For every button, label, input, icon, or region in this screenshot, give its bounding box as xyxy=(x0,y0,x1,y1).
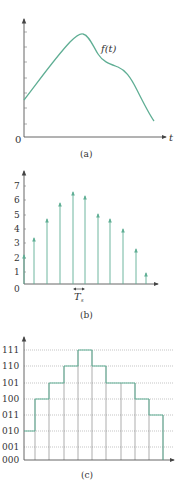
svg-text:3: 3 xyxy=(14,238,20,248)
origin-label: 0 xyxy=(15,134,21,145)
figure: f(t) t 0 (a) 1 2 3 4 5 6 7 0 xyxy=(0,0,191,486)
y-tick-labels: 000 001 010 011 100 101 110 111 xyxy=(2,345,19,465)
caption-c: (c) xyxy=(81,470,93,480)
sample-stems xyxy=(24,192,146,284)
svg-text:011: 011 xyxy=(2,410,19,420)
svg-text:6: 6 xyxy=(14,195,20,205)
x-axis-label: t xyxy=(169,132,174,143)
period-subscript: s xyxy=(81,297,84,303)
sampling-period-marker: T s xyxy=(73,288,85,304)
svg-text:2: 2 xyxy=(14,253,20,263)
svg-text:7: 7 xyxy=(14,181,20,191)
svg-text:5: 5 xyxy=(14,210,20,220)
svg-text:110: 110 xyxy=(2,361,19,371)
svg-text:1: 1 xyxy=(14,267,20,277)
caption-a: (a) xyxy=(80,149,92,159)
curve-label: f(t) xyxy=(100,43,117,54)
panel-c-quantized-signal: 000 001 010 011 100 101 110 111 (c) xyxy=(2,337,174,480)
svg-text:111: 111 xyxy=(2,345,19,355)
svg-text:101: 101 xyxy=(2,378,19,388)
svg-text:010: 010 xyxy=(2,426,19,436)
panel-a-continuous-signal: f(t) t 0 (a) xyxy=(15,19,174,159)
quantized-step-curve xyxy=(24,350,163,460)
svg-text:000: 000 xyxy=(2,455,19,465)
svg-text:4: 4 xyxy=(14,224,20,234)
caption-b: (b) xyxy=(80,310,93,320)
y-tick-labels: 1 2 3 4 5 6 7 0 xyxy=(14,181,20,294)
svg-text:100: 100 xyxy=(2,394,19,404)
origin-label: 0 xyxy=(14,284,20,294)
panel-b-sampled-signal: 1 2 3 4 5 6 7 0 xyxy=(14,171,158,320)
signal-curve xyxy=(24,34,154,121)
svg-text:001: 001 xyxy=(2,442,19,452)
